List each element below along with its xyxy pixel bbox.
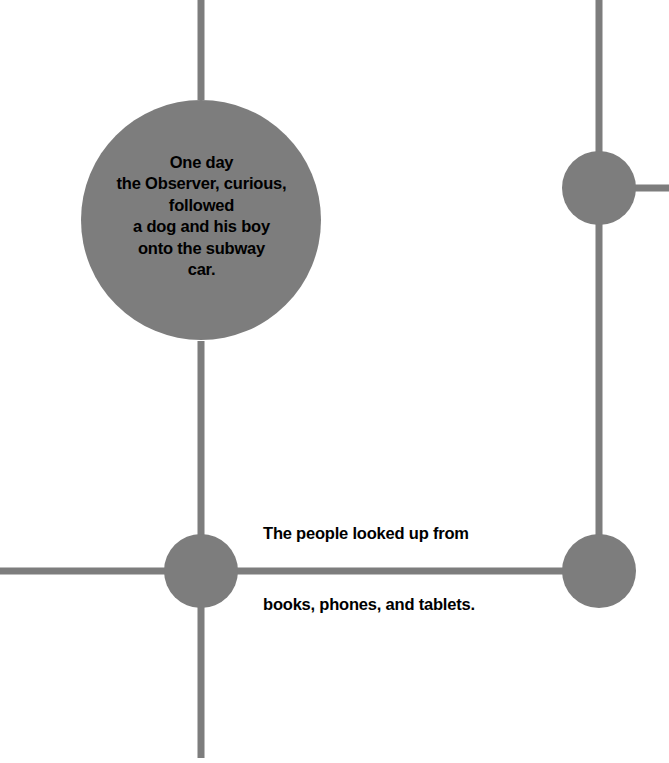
- lower-left-node[interactable]: [164, 534, 238, 608]
- diagram-canvas: One day the Observer, curious, followed …: [0, 0, 669, 763]
- lower-right-node[interactable]: [562, 534, 636, 608]
- edge-label-people-looked-up: The people looked up from: [263, 524, 469, 543]
- upper-right-node[interactable]: [562, 151, 636, 225]
- edge-label-books-phones-tablets: books, phones, and tablets.: [263, 595, 475, 614]
- edges-layer: [0, 0, 669, 758]
- graph-svg: [0, 0, 669, 763]
- main-story-node-label: One day the Observer, curious, followed …: [81, 152, 322, 281]
